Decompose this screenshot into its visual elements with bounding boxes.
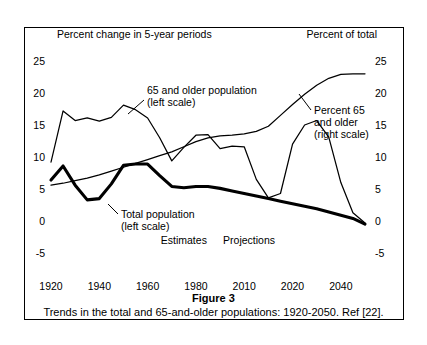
left-tick-label: 0	[39, 215, 45, 227]
right-tick-label: 20	[375, 87, 387, 99]
right-tick-label: 10	[375, 151, 387, 163]
right-tick-label: 0	[375, 215, 381, 227]
chart-svg: Percent change in 5-year periodsPercent …	[25, 28, 402, 318]
series-leader-1	[108, 204, 118, 214]
left-axis-header: Percent change in 5-year periods	[57, 28, 212, 40]
right-tick-label: 5	[375, 183, 381, 195]
annotation-estimates: Estimates	[161, 234, 207, 246]
left-tick-label: 15	[33, 119, 45, 131]
figure-root: Percent change in 5-year periodsPercent …	[0, 0, 427, 345]
series-leader-2	[299, 94, 311, 110]
series-label-1: (left scale)	[121, 220, 169, 232]
left-tick-label: -5	[36, 247, 45, 259]
annotation-projections: Projections	[223, 234, 275, 246]
left-tick-label: 5	[39, 183, 45, 195]
figure-caption-text: Trends in the total and 65-and-older pop…	[0, 305, 427, 319]
chart-frame: Percent change in 5-year periodsPercent …	[24, 27, 404, 320]
series-label-1: Total population	[121, 208, 195, 220]
series-label-2: Percent 65	[314, 104, 365, 116]
series-label-0: (left scale)	[147, 96, 195, 108]
series-leader-0	[128, 100, 144, 114]
left-tick-label: 25	[33, 55, 45, 67]
right-tick-label: 15	[375, 119, 387, 131]
figure-title: Figure 3	[0, 291, 427, 305]
right-axis-header: Percent of total	[306, 28, 377, 40]
right-tick-label: 25	[375, 55, 387, 67]
right-tick-label: -5	[375, 247, 384, 259]
series-label-0: 65 and older population	[147, 84, 257, 96]
left-tick-label: 20	[33, 87, 45, 99]
figure-caption: Figure 3 Trends in the total and 65-and-…	[0, 291, 427, 319]
series-path-1	[51, 164, 365, 224]
series-label-2: (right scale)	[314, 128, 369, 140]
left-tick-label: 10	[33, 151, 45, 163]
series-label-2: and older	[314, 116, 358, 128]
